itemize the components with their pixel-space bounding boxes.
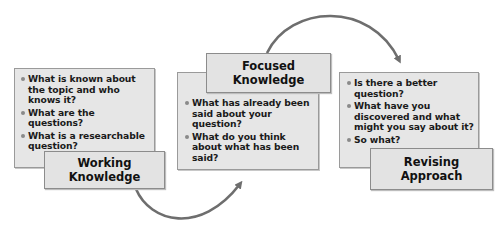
bullet-icon: [347, 104, 351, 108]
bullet-icon: [21, 111, 25, 115]
bullet-icon: [21, 77, 25, 81]
list-item: What has already been said about your qu…: [184, 98, 314, 130]
list-item: What is a researchable question?: [20, 131, 150, 152]
list-item: What is known about the topic and who kn…: [20, 74, 150, 106]
list-item: So what?: [346, 135, 474, 146]
focused-knowledge-title: Focused Knowledge: [206, 53, 331, 93]
revising-approach-questions: Is there a better question? What have yo…: [346, 78, 474, 145]
focused-knowledge-questions: What has already been said about your qu…: [184, 98, 314, 163]
arrow-working-to-focused: [136, 184, 240, 218]
working-knowledge-title: Working Knowledge: [44, 151, 165, 189]
list-item: Is there a better question?: [346, 78, 474, 99]
bullet-icon: [21, 134, 25, 138]
bullet-icon: [185, 101, 189, 105]
list-item: What do you think about what has been sa…: [184, 132, 314, 164]
bullet-icon: [185, 135, 189, 139]
revising-approach-title: Revising Approach: [370, 148, 493, 190]
list-item: What are the questions?: [20, 108, 150, 129]
bullet-icon: [347, 138, 351, 142]
working-knowledge-questions: What is known about the topic and who kn…: [20, 74, 150, 152]
bullet-icon: [347, 81, 351, 85]
list-item: What have you discovered and what might …: [346, 101, 474, 133]
